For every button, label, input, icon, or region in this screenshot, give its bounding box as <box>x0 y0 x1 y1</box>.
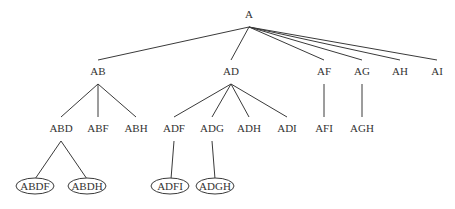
tree-nodes: AABADAFAGAHAIABDABFABHADFADGADHADIAFIAGH… <box>16 8 443 194</box>
node-label: ADF <box>163 122 185 134</box>
node-label: A <box>245 8 253 20</box>
tree-node-adh: ADH <box>237 122 261 134</box>
edge-abd-abdf <box>35 141 61 179</box>
edge-adf-adfi <box>171 141 174 179</box>
node-label: ABH <box>124 122 147 134</box>
edge-ad-adi <box>231 84 287 117</box>
tree-node-abf: ABF <box>87 122 108 134</box>
tree-node-ai: AI <box>431 65 443 77</box>
edge-a-ad <box>231 27 249 60</box>
node-label: AF <box>317 65 331 77</box>
tree-node-abdh: ABDH <box>68 178 106 194</box>
edge-ad-adf <box>174 84 231 117</box>
node-label: AGH <box>350 122 374 134</box>
node-label: ABF <box>87 122 108 134</box>
tree-edges <box>35 27 437 179</box>
node-label: ADGH <box>199 180 231 192</box>
tree-node-adfi: ADFI <box>151 178 189 194</box>
node-label: ABD <box>49 122 72 134</box>
edge-abd-abdh <box>61 141 87 179</box>
edge-ab-abd <box>61 84 98 117</box>
node-label: AI <box>431 65 443 77</box>
edge-ab-abh <box>98 84 136 117</box>
node-label: ABDH <box>71 180 102 192</box>
tree-node-afi: AFI <box>315 122 333 134</box>
edge-a-ai <box>249 27 437 60</box>
tree-node-adg: ADG <box>200 122 224 134</box>
tree-node-ad: AD <box>223 65 239 77</box>
tree-node-agh: AGH <box>350 122 374 134</box>
tree-diagram: AABADAFAGAHAIABDABFABHADFADGADHADIAFIAGH… <box>0 0 455 209</box>
tree-node-abdf: ABDF <box>16 178 54 194</box>
tree-node-ab: AB <box>90 65 105 77</box>
node-label: ABDF <box>20 180 49 192</box>
tree-node-adgh: ADGH <box>196 178 234 194</box>
tree-node-ah: AH <box>392 65 408 77</box>
node-label: AG <box>354 65 370 77</box>
tree-node-ag: AG <box>354 65 370 77</box>
node-label: AFI <box>315 122 333 134</box>
tree-node-af: AF <box>317 65 331 77</box>
edge-a-ab <box>98 27 249 60</box>
tree-node-abd: ABD <box>49 122 72 134</box>
edge-adg-adgh <box>212 141 215 179</box>
node-label: AB <box>90 65 105 77</box>
node-label: AH <box>392 65 408 77</box>
node-label: AD <box>223 65 239 77</box>
node-label: ADH <box>237 122 261 134</box>
edge-a-ah <box>249 27 400 60</box>
edge-a-af <box>249 27 324 60</box>
tree-node-abh: ABH <box>124 122 147 134</box>
node-label: ADFI <box>157 180 183 192</box>
node-label: ADG <box>200 122 224 134</box>
node-label: ADI <box>277 122 297 134</box>
tree-node-a: A <box>245 8 253 20</box>
tree-node-adf: ADF <box>163 122 185 134</box>
tree-node-adi: ADI <box>277 122 297 134</box>
